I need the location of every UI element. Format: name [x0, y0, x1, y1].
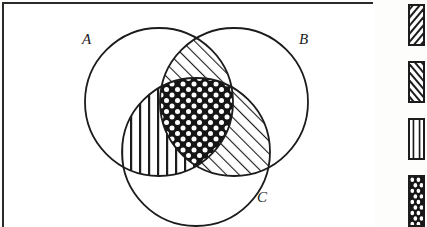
diagonal-backward-hatch-swatch-icon: [408, 61, 425, 103]
figure-root: A B C: [0, 0, 427, 227]
vertical-lines-swatch-icon: [408, 118, 425, 160]
figure-frame: A B C: [2, 2, 373, 227]
dark-dots-swatch-icon: [408, 175, 425, 227]
diagonal-forward-hatch-swatch-icon: [408, 4, 425, 46]
set-label-a: A: [81, 31, 92, 47]
set-label-b: B: [299, 31, 308, 47]
pattern-legend: [405, 0, 427, 227]
venn-diagram: A B C: [4, 4, 375, 227]
set-label-c: C: [257, 189, 268, 205]
